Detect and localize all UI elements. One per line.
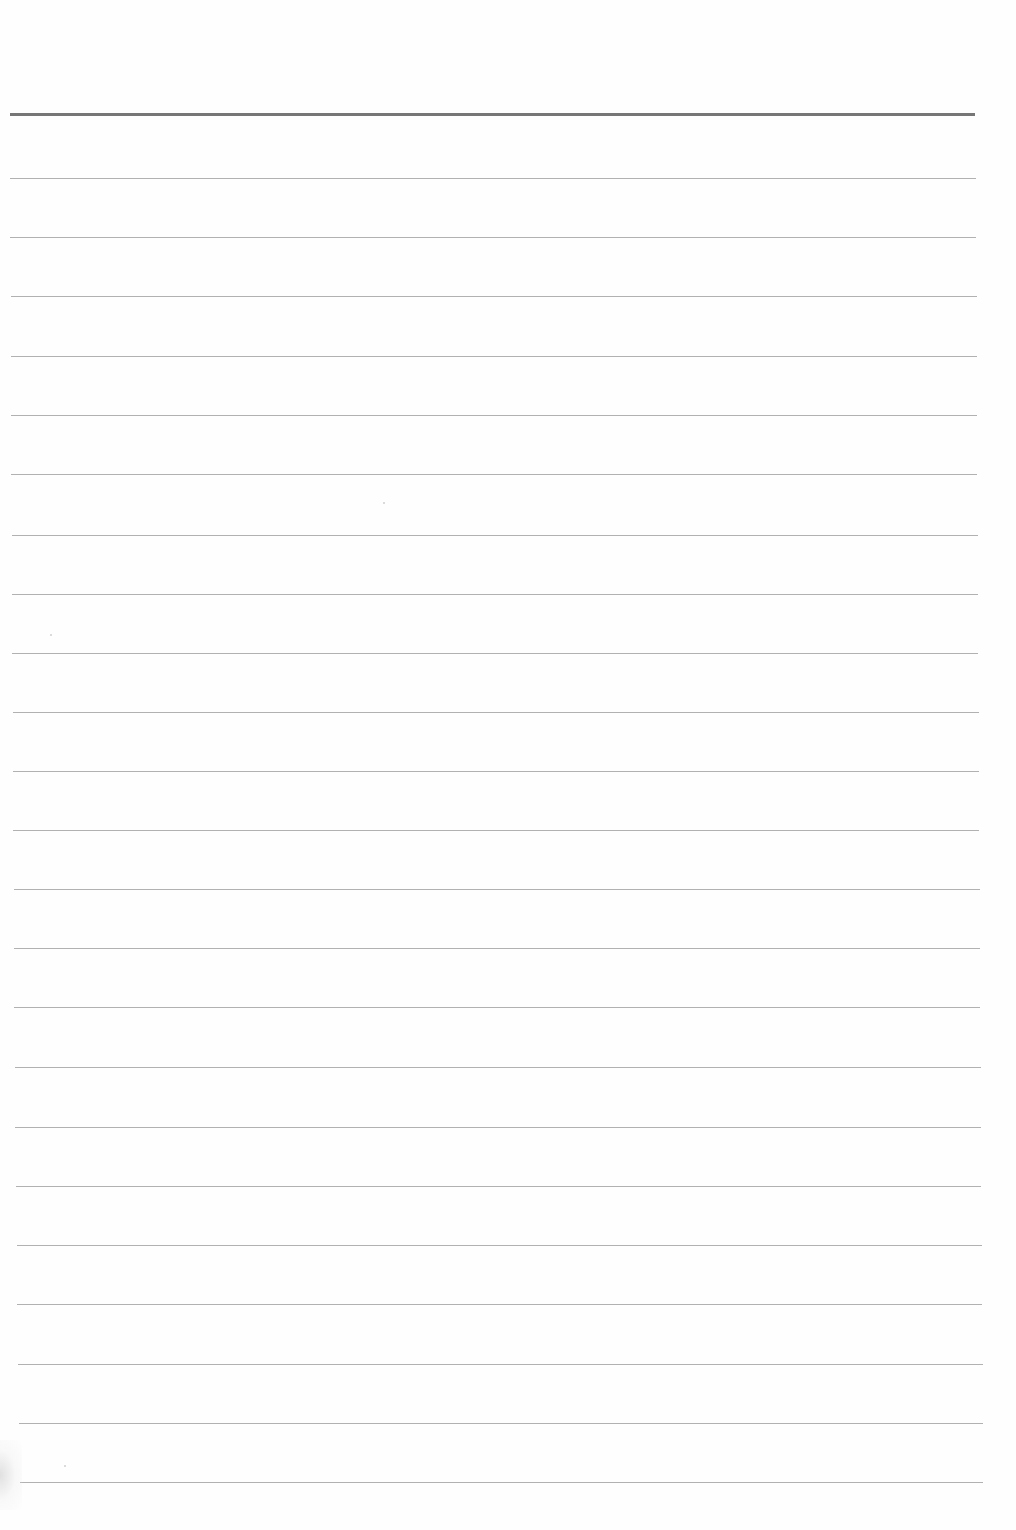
- ruled-line: [11, 356, 977, 357]
- ruled-line: [16, 1186, 981, 1187]
- ruled-line: [14, 889, 980, 890]
- ruled-line: [12, 594, 978, 595]
- ruled-line: [17, 1304, 982, 1305]
- ruled-line: [13, 771, 979, 772]
- scan-speck: [383, 502, 385, 504]
- scan-speck: [50, 634, 52, 636]
- ruled-line: [19, 1423, 983, 1424]
- ruled-line: [13, 712, 979, 713]
- ruled-line: [12, 653, 978, 654]
- ruled-line: [15, 1127, 981, 1128]
- ruled-line: [14, 948, 980, 949]
- ruled-line: [10, 237, 976, 238]
- lined-paper-page: [0, 0, 1016, 1530]
- ruled-line: [10, 178, 976, 179]
- ruled-line: [20, 1482, 983, 1483]
- ruled-line: [11, 296, 977, 297]
- scan-edge-shadow: [0, 1440, 22, 1510]
- ruled-line: [15, 1067, 981, 1068]
- ruled-line: [12, 535, 978, 536]
- ruled-line: [14, 1007, 980, 1008]
- ruled-line: [11, 415, 977, 416]
- ruled-line: [11, 474, 977, 475]
- ruled-line: [18, 1364, 983, 1365]
- ruled-line: [17, 1245, 982, 1246]
- scan-speck: [64, 1465, 66, 1467]
- ruled-line: [13, 830, 979, 831]
- header-rule: [10, 113, 975, 116]
